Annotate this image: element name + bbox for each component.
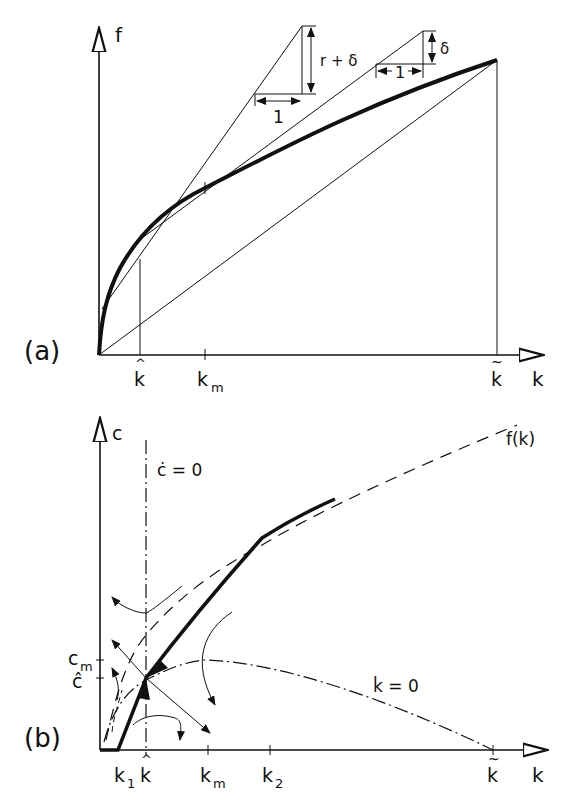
hat-mark: ^ bbox=[141, 752, 152, 767]
k-dot-zero-locus bbox=[104, 660, 493, 750]
tilde-mark: ~ bbox=[488, 751, 500, 767]
k-dot-zero-label: k̇ = 0 bbox=[373, 676, 419, 696]
tick-k-tilde-b: k bbox=[487, 764, 498, 786]
tick-k-m-b-sub: m bbox=[213, 776, 226, 791]
tick-k-hat-a: k bbox=[134, 368, 145, 390]
f-k-label: f(k) bbox=[506, 429, 535, 449]
tick-k-tilde-a: k bbox=[491, 368, 502, 390]
triangle-2-vertical-label: δ bbox=[440, 40, 449, 58]
hat-mark: ^ bbox=[135, 356, 146, 371]
tangent-delta bbox=[138, 31, 423, 241]
tick-k-m-a: k bbox=[197, 368, 208, 390]
tilde-mark: ~ bbox=[491, 354, 503, 370]
c-axis-label: c bbox=[112, 422, 122, 444]
k-axis-b-label: k bbox=[532, 763, 544, 787]
panel-b: c k (b) ċ = 0 k̇ = 0 f(k) c m ĉ bbox=[24, 418, 547, 791]
tick-c-m: c bbox=[68, 647, 78, 669]
tick-k-m-a-sub: m bbox=[211, 380, 224, 395]
tick-k2: k bbox=[262, 764, 273, 786]
ray-to-k-tilde bbox=[99, 60, 497, 355]
tangent-r-plus-delta bbox=[102, 26, 302, 309]
panel-a-tag: (a) bbox=[24, 336, 60, 366]
panel-a: f k (a) r + δ 1 bbox=[24, 23, 544, 395]
tick-k-hat-b: k bbox=[140, 764, 151, 786]
c-dot-zero-label: ċ = 0 bbox=[157, 460, 202, 480]
tick-k1-sub: 1 bbox=[127, 776, 135, 791]
diagram-canvas: f k (a) r + δ 1 bbox=[0, 0, 573, 807]
f-axis-label: f bbox=[115, 23, 123, 47]
k-axis-a-label: k bbox=[532, 367, 544, 391]
tick-k2-sub: 2 bbox=[275, 776, 283, 791]
panel-b-tag: (b) bbox=[24, 723, 61, 753]
triangle-2-horizontal-label: 1 bbox=[395, 63, 405, 82]
tick-k1: k bbox=[114, 764, 125, 786]
tick-c-hat: ĉ bbox=[72, 670, 82, 692]
triangle-1-vertical-label: r + δ bbox=[320, 52, 357, 70]
tick-k-m-b: k bbox=[200, 764, 211, 786]
triangle-1-horizontal-label: 1 bbox=[273, 107, 284, 127]
